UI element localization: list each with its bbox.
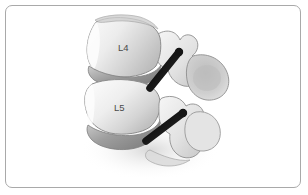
label-vertebra-l5: L5	[114, 102, 125, 113]
spine-illustration: L4 L5	[0, 0, 308, 195]
facet-joint	[193, 65, 221, 91]
figure-root: L4 L5	[0, 0, 308, 195]
pedicle-screw-lower-head[interactable]	[179, 109, 187, 117]
transverse-process-lower	[185, 112, 220, 151]
pedicle-screw-upper-head[interactable]	[175, 48, 183, 56]
label-vertebra-l4: L4	[118, 42, 129, 53]
